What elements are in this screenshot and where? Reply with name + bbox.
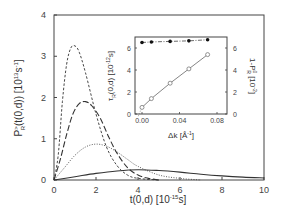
open-circle-marker bbox=[187, 67, 191, 71]
inset-y-tick-label: 6 bbox=[127, 45, 131, 52]
inset-y-tick-label: 2 bbox=[127, 89, 131, 96]
inset-x-tick-label: 0.00 bbox=[135, 117, 149, 124]
y-tick-label: 4 bbox=[41, 10, 46, 20]
y-axis-label: P>R(t(0,d)) [1013s-1] bbox=[13, 59, 26, 136]
inset-yr-tick-label: 0 bbox=[233, 111, 237, 118]
inset-x-tick-label: 0.04 bbox=[173, 117, 187, 124]
open-circle-marker bbox=[168, 81, 172, 85]
x-tick-label: 8 bbox=[219, 185, 224, 195]
x-tick-label: 10 bbox=[259, 185, 269, 195]
y-tick-label: 0 bbox=[41, 175, 46, 185]
chart: 024681001234 t(0,d) [10-15s] P>R(t(0,d))… bbox=[0, 0, 282, 211]
open-circle-marker bbox=[140, 105, 144, 109]
filled-circle-marker bbox=[168, 40, 172, 44]
filled-circle-marker bbox=[206, 38, 210, 42]
inset-frame bbox=[135, 37, 227, 114]
inset-y-tick-label: 0 bbox=[127, 111, 131, 118]
inset-y-axis-label: τR(0,d) [10-12s] bbox=[105, 51, 117, 101]
y-tick-label: 3 bbox=[41, 51, 46, 61]
x-axis-label: t(0,d) [10-15s] bbox=[130, 194, 187, 205]
filled-circle-marker bbox=[140, 41, 144, 45]
open-circle-marker bbox=[149, 97, 153, 101]
x-tick-label: 0 bbox=[51, 185, 56, 195]
inset-x-axis-label: Δk [Å-1] bbox=[168, 130, 194, 140]
y-tick-label: 1 bbox=[41, 134, 46, 144]
inset-yr-tick-label: 2 bbox=[233, 89, 237, 96]
x-tick-label: 2 bbox=[93, 185, 98, 195]
filled-circle-marker bbox=[187, 39, 191, 43]
y-tick-label: 2 bbox=[41, 93, 46, 103]
inset-y-tick-label: 4 bbox=[127, 67, 131, 74]
inset-right-axis-label: 1-P0R [10-2] bbox=[246, 58, 258, 94]
inset-yr-tick-label: 6 bbox=[233, 45, 237, 52]
filled-circle-marker bbox=[150, 40, 154, 44]
inset-yr-tick-label: 4 bbox=[233, 67, 237, 74]
inset-x-tick-label: 0.08 bbox=[210, 117, 224, 124]
open-circle-marker bbox=[206, 53, 210, 57]
